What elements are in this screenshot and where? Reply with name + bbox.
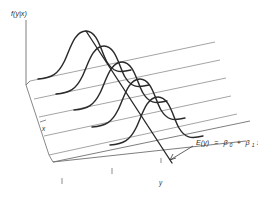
equation-variable: x bbox=[256, 138, 258, 147]
equation-beta1-subscript: 1 bbox=[252, 142, 255, 148]
regression-figure: f(y|x) x y E(y) = β 0 + β 1 x bbox=[0, 0, 258, 199]
vertical-axis-label: f(y|x) bbox=[11, 9, 27, 18]
regression-equation: E(y) = β 0 + β 1 x bbox=[196, 138, 258, 149]
bell-curve-5 bbox=[110, 97, 203, 145]
horizontal-axis bbox=[53, 121, 250, 162]
depth-axis-tick bbox=[40, 120, 46, 122]
equation-beta0: β bbox=[222, 138, 227, 147]
grid-baseline-5 bbox=[49, 114, 237, 155]
equation-lead: E(y) bbox=[196, 138, 209, 147]
equation-equals: = bbox=[214, 138, 218, 147]
horizontal-axis-label: y bbox=[158, 179, 163, 187]
grid-baseline-3 bbox=[39, 78, 226, 117]
equation-beta1: β bbox=[245, 138, 250, 147]
vertical-axis-foot bbox=[26, 81, 30, 85]
equation-beta0-subscript: 0 bbox=[230, 142, 233, 148]
depth-axis bbox=[26, 85, 53, 162]
grid-baseline-4 bbox=[44, 96, 231, 136]
depth-axis-label: x bbox=[41, 125, 46, 132]
equation-plus: + bbox=[237, 138, 241, 147]
figure-canvas: f(y|x) x y E(y) = β 0 + β 1 x bbox=[0, 0, 258, 199]
